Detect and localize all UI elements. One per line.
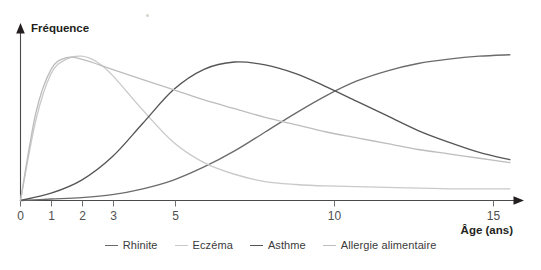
y-axis-arrow-icon bbox=[16, 23, 25, 34]
x-tick-label-10: 10 bbox=[328, 209, 342, 223]
series-layer bbox=[21, 55, 510, 201]
x-axis-label: Âge (ans) bbox=[461, 224, 514, 236]
x-tick-label-3: 3 bbox=[110, 209, 117, 223]
series-line-rhinite bbox=[21, 55, 510, 201]
legend-swatch-allergie-alimentaire bbox=[323, 245, 336, 246]
legend-swatch-rhinite bbox=[105, 245, 118, 246]
legend-label-asthme: Asthme bbox=[268, 239, 306, 251]
chart-plot-area: 0 1 2 3 5 10 15 Fréquence Âge (ans) bbox=[0, 0, 541, 270]
legend-label-eczema: Eczéma bbox=[193, 239, 233, 251]
x-tick-label-5: 5 bbox=[172, 209, 179, 223]
y-axis-label: Fréquence bbox=[31, 22, 89, 34]
legend-item-allergie-alimentaire[interactable]: Allergie alimentaire bbox=[323, 239, 437, 251]
x-axis-arrow-icon bbox=[514, 196, 525, 205]
legend-item-eczema[interactable]: Eczéma bbox=[175, 239, 233, 251]
chart-legend: Rhinite Eczéma Asthme Allergie alimentai… bbox=[0, 239, 541, 251]
x-axis-ticks bbox=[21, 201, 494, 207]
x-tick-label-2: 2 bbox=[79, 209, 86, 223]
x-tick-label-0: 0 bbox=[17, 209, 24, 223]
x-tick-label-1: 1 bbox=[48, 209, 55, 223]
legend-swatch-asthme bbox=[250, 245, 263, 246]
x-tick-label-15: 15 bbox=[487, 209, 501, 223]
series-line-allergie-alimentaire bbox=[21, 57, 510, 201]
legend-item-asthme[interactable]: Asthme bbox=[250, 239, 306, 251]
legend-swatch-eczema bbox=[175, 245, 188, 246]
series-line-ecz-ma bbox=[21, 56, 510, 200]
allergy-frequency-chart: 0 1 2 3 5 10 15 Fréquence Âge (ans) Rhin… bbox=[0, 0, 541, 270]
legend-label-rhinite: Rhinite bbox=[123, 239, 158, 251]
legend-label-allergie-alimentaire: Allergie alimentaire bbox=[341, 239, 437, 251]
legend-item-rhinite[interactable]: Rhinite bbox=[105, 239, 158, 251]
series-line-asthme bbox=[21, 62, 510, 201]
